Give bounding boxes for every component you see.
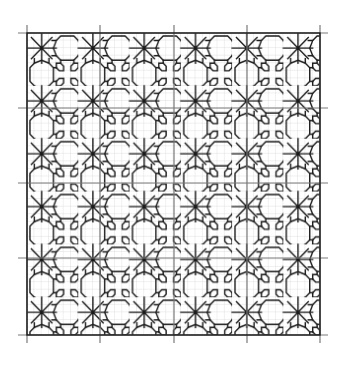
pattern-canvas: [0, 0, 348, 366]
